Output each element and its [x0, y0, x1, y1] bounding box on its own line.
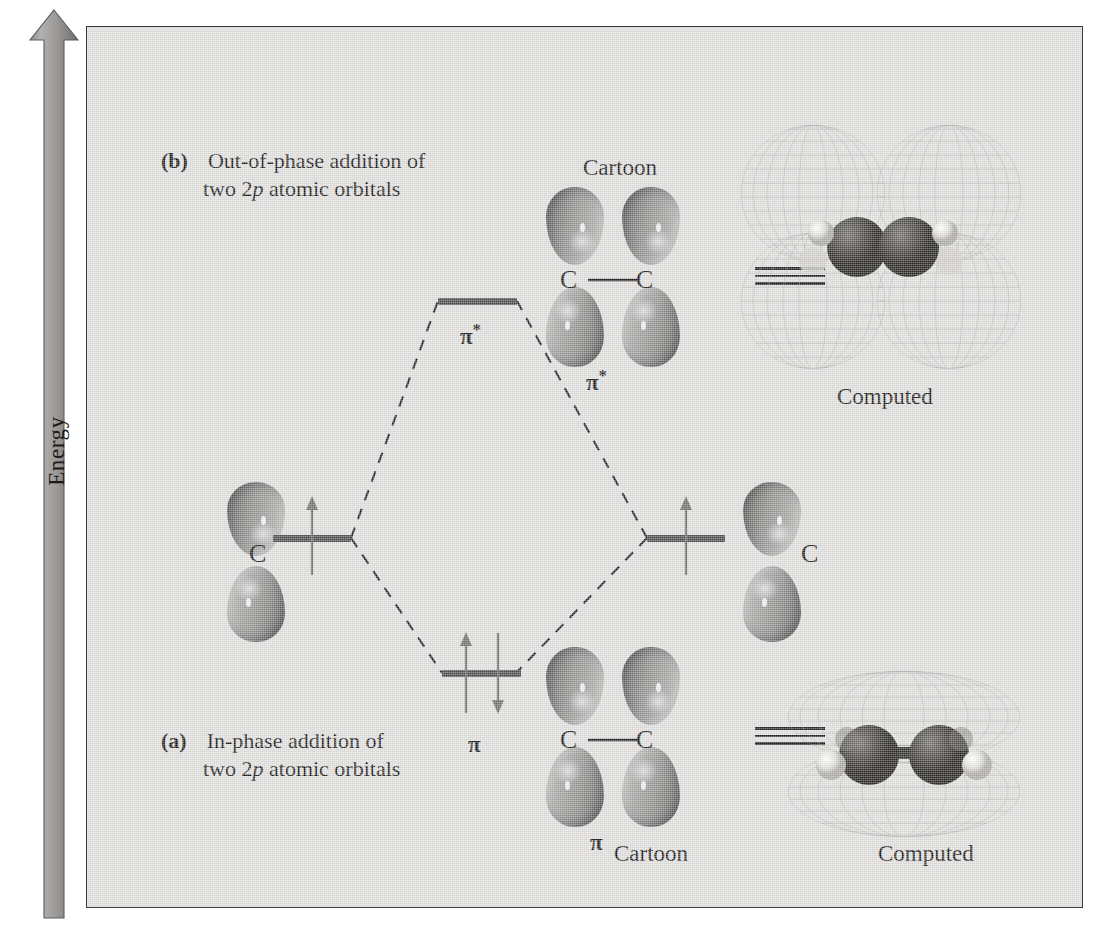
p-orbital-lobe-icon [743, 566, 801, 642]
electron-arrow-up-ao-right [675, 495, 697, 577]
energy-level-antibonding [438, 298, 517, 305]
p-orbital-lobe-icon [546, 187, 604, 265]
cartoon-orbital-label-antibonding: π* [586, 365, 607, 397]
p-orbital-lobe-icon [546, 747, 604, 827]
cartoon-atom-right-bonding: C [636, 723, 654, 756]
atom-label-left: C [249, 537, 267, 570]
energy-level-bonding [442, 670, 521, 677]
caption-a-marker: (a) [161, 728, 187, 753]
electron-arrow-down-bonding [487, 631, 509, 715]
mo-label-antibonding: π* [460, 319, 481, 351]
p-orbital-lobe-icon [622, 187, 680, 265]
diagram-panel: (b) Out-of-phase addition of two 2p atom… [86, 26, 1083, 908]
electron-arrow-up-bonding [455, 631, 477, 715]
header-cartoon-top: Cartoon [583, 153, 657, 182]
cc-bond-line-antibonding [586, 277, 640, 283]
caption-b-line1: Out-of-phase addition of [208, 148, 426, 173]
energy-axis-label: Energy [44, 396, 70, 506]
caption-b-line2-italic: p [253, 176, 264, 201]
p-orbital-lobe-icon [622, 747, 680, 827]
caption-a-line2-italic: p [253, 756, 264, 781]
cartoon-atom-right-antibonding: C [636, 263, 654, 296]
caption-a-line2-post: atomic orbitals [264, 756, 401, 781]
atom-label-right: C [801, 537, 819, 570]
p-orbital-lobe-icon [546, 287, 604, 367]
electron-arrow-up-ao-left [301, 495, 323, 577]
p-orbital-lobe-icon [743, 482, 801, 556]
header-cartoon-bottom: Cartoon [614, 839, 688, 868]
cartoon-atom-left-bonding: C [560, 723, 578, 756]
cartoon-atom-left-antibonding: C [560, 263, 578, 296]
caption-a-line2-pre: two 2 [203, 756, 253, 781]
caption-a: (a) In-phase addition of two 2p atomic o… [161, 727, 400, 783]
cartoon-orbital-label-bonding: π [590, 825, 603, 857]
energy-axis: Energy [28, 8, 80, 920]
p-orbital-lobe-icon [622, 647, 680, 725]
p-orbital-lobe-icon [546, 647, 604, 725]
cartoon-bonding: C C π [540, 647, 730, 837]
caption-b-line2-post: atomic orbitals [264, 176, 401, 201]
caption-b-marker: (b) [161, 148, 188, 173]
caption-a-line1: In-phase addition of [207, 728, 384, 753]
caption-b-line2-pre: two 2 [203, 176, 253, 201]
caption-b: (b) Out-of-phase addition of two 2p atom… [161, 147, 425, 203]
mo-label-bonding: π [468, 727, 481, 759]
computed-orbital-bonding [759, 655, 1049, 855]
computed-orbital-antibonding [717, 109, 1047, 389]
p-orbital-lobe-icon [227, 566, 285, 642]
cartoon-antibonding: C C π* [540, 187, 730, 377]
cc-bond-line-bonding [586, 737, 640, 743]
p-orbital-lobe-icon [622, 287, 680, 367]
